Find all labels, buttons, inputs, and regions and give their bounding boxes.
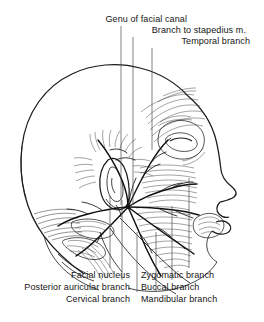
occipital-shading: [34, 209, 83, 240]
label-temporal-branch: Temporal branch: [0, 36, 250, 46]
masseter-muscle: [136, 207, 192, 268]
facial-nerve-diagram: Genu of facial canal Branch to stapedius…: [0, 0, 264, 322]
label-buccal-branch: Buccal branch: [141, 282, 199, 292]
label-posterior-auricular-branch: Posterior auricular branch: [0, 282, 130, 292]
orbit-and-eye: [158, 116, 205, 165]
facial-profile: [128, 96, 236, 291]
label-cervical-branch: Cervical branch: [0, 294, 130, 304]
orbicularis-oris: [193, 213, 224, 237]
label-facial-nucleus: Facial nucleus: [0, 270, 130, 280]
label-mandibular-branch: Mandibular branch: [141, 294, 217, 304]
label-branch-to-stapedius: Branch to stapedius m.: [0, 25, 246, 35]
label-genu-of-facial-canal: Genu of facial canal: [0, 14, 187, 24]
label-zygomatic-branch: Zygomatic branch: [141, 270, 214, 280]
